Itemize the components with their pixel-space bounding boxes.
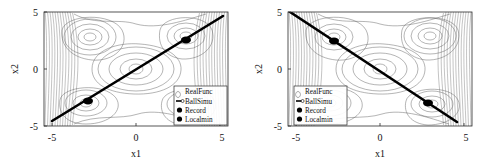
right-ytick-min: -5 [274,121,282,132]
right-localmin-marker-lower [423,100,433,107]
left-legend-label-record: Record [185,107,206,115]
legend-ballsimu-marker-icon [301,100,304,103]
legend-ballsimu-marker-icon [181,100,184,103]
legend-record-icon [177,107,182,112]
right-legend-label-realfunc: RealFunc [305,88,333,96]
right-xtick-min: -5 [292,132,300,143]
right-panel-plot: 5 0 -5 -5 0 5 x1 x2 RealFunc BallSimu Re… [244,0,488,164]
left-panel-plot: 5 0 -5 -5 0 5 x1 x2 RealFunc BallSimu Re… [0,0,244,164]
left-yaxis-title: x2 [9,64,20,74]
right-yaxis-title: x2 [253,64,264,74]
left-legend-label-localmin: Localmin [185,116,213,124]
right-ytick-mid: 0 [277,64,282,75]
legend-record-icon [297,107,302,112]
legend-localmin-icon [297,116,302,121]
left-localmin-marker-upper [181,37,191,44]
left-panel: 5 0 -5 -5 0 5 x1 x2 RealFunc BallSimu Re… [0,0,244,164]
right-xtick-mid: 0 [378,132,383,143]
right-legend: RealFunc BallSimu Record Localmin [294,86,347,125]
right-ytick-max: 5 [277,7,282,18]
left-legend: RealFunc BallSimu Record Localmin [174,86,227,125]
right-panel: 5 0 -5 -5 0 5 x1 x2 RealFunc BallSimu Re… [244,0,488,164]
left-legend-label-ballsimu: BallSimu [185,98,213,106]
left-xaxis-title: x1 [131,148,141,159]
right-localmin-marker-upper [329,38,339,45]
right-xtick-max: 5 [464,132,469,143]
left-ytick-min: -5 [30,121,38,132]
contour-figure: 5 0 -5 -5 0 5 x1 x2 RealFunc BallSimu Re… [0,0,488,164]
left-legend-label-realfunc: RealFunc [185,88,213,96]
left-xtick-mid: 0 [134,132,139,143]
left-localmin-marker-lower [83,98,93,105]
left-ytick-mid: 0 [33,64,38,75]
left-xtick-min: -5 [48,132,56,143]
left-xtick-max: 5 [220,132,225,143]
right-legend-label-localmin: Localmin [305,116,333,124]
right-legend-label-ballsimu: BallSimu [305,98,333,106]
right-xaxis-title: x1 [375,148,385,159]
right-legend-label-record: Record [305,107,326,115]
left-ytick-max: 5 [33,7,38,18]
legend-localmin-icon [177,116,182,121]
